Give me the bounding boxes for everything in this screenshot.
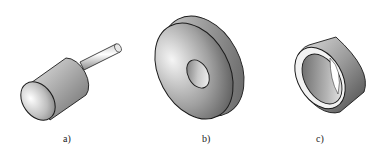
panel-c-cup-wheel (284, 37, 365, 118)
panel-a-label: a) (63, 134, 71, 144)
panel-c-label: c) (316, 134, 324, 144)
panel-b-disc-wheel (139, 2, 260, 133)
panel-a-mounted-point (14, 43, 123, 127)
diagram-figure: a) b) c) (0, 0, 381, 157)
panel-b-label: b) (202, 134, 210, 144)
